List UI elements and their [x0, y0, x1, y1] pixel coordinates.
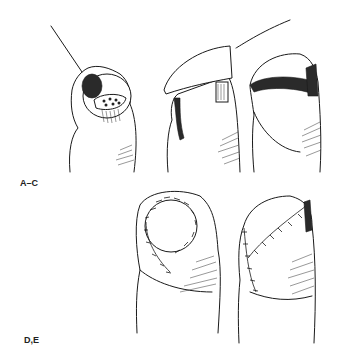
panel-a-finger-illustration	[51, 26, 136, 172]
panel-label-d-e: D,E	[24, 335, 39, 345]
panel-b-finger-illustration	[164, 20, 290, 172]
panel-label-a-c: A–C	[20, 178, 38, 188]
panel-c-finger-illustration	[250, 54, 321, 172]
panel-e-finger-illustration	[238, 196, 315, 343]
panel-d-finger-illustration	[136, 191, 220, 333]
surgical-illustration	[0, 0, 339, 353]
